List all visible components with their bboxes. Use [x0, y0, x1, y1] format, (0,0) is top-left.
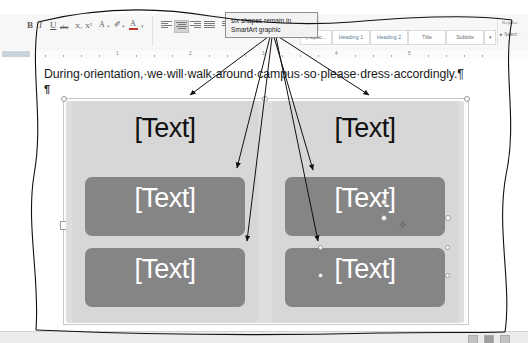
- text-highlight-chevron-icon[interactable]: ▾: [122, 22, 125, 32]
- font-color-chevron-icon[interactable]: ▾: [141, 22, 144, 32]
- document-page[interactable]: During·orientation,·we·will·walk·around·…: [0, 59, 528, 331]
- word-document-window: B I U abc X₂ X² A ▾ ✐ ▾ A ▾ ▾: [0, 0, 528, 343]
- align-left-icon[interactable]: [161, 21, 172, 30]
- smartart-shape-left-1[interactable]: [Text]: [85, 177, 245, 236]
- smartart-shape-left-1-label: [Text]: [85, 183, 245, 214]
- italic-icon[interactable]: I: [39, 20, 42, 30]
- shape-handle-bottomright[interactable]: [445, 273, 450, 278]
- smartart-shape-header-right[interactable]: [Text]: [272, 113, 458, 144]
- smartart-handle-tr[interactable]: [464, 96, 470, 102]
- align-right-icon[interactable]: [190, 21, 201, 30]
- smartart-right-column[interactable]: [Text] [Text] [Text]: [272, 101, 458, 323]
- smartart-shape-right-1-label: [Text]: [285, 183, 445, 214]
- style-title[interactable]: Title: [408, 30, 446, 45]
- annotation-line-1: six shapes remain in: [231, 17, 291, 24]
- style-subtitle[interactable]: Subtitle: [446, 30, 484, 45]
- smartart-shape-right-1[interactable]: [Text]: [285, 177, 445, 236]
- annotation-callout-text: six shapes remain in SmartArt graphic: [231, 16, 315, 34]
- view-print-layout-icon[interactable]: [468, 335, 478, 343]
- style-heading-1[interactable]: Heading 1: [332, 30, 370, 45]
- text-effects-icon[interactable]: A: [99, 20, 105, 30]
- document-paragraph[interactable]: During·orientation,·we·will·walk·around·…: [44, 67, 464, 81]
- ruler-number-2: 2: [189, 51, 192, 56]
- justify-icon[interactable]: [204, 21, 215, 30]
- annotation-line-2: SmartArt graphic: [231, 26, 280, 33]
- shape-handle-top[interactable]: [381, 215, 387, 221]
- shape-handle-bottomleft[interactable]: [318, 273, 323, 278]
- ruler-number-1: 1: [116, 51, 119, 56]
- styles-more-chevron-icon[interactable]: ▾: [484, 30, 496, 45]
- ruler-number-4: 4: [335, 51, 338, 56]
- superscript-icon[interactable]: X²: [85, 21, 92, 31]
- smartart-shape-header-left[interactable]: [Text]: [72, 113, 258, 144]
- text-effects-chevron-icon[interactable]: ▾: [107, 22, 110, 32]
- shape-handle-topright[interactable]: [445, 215, 451, 221]
- ruler-number-5: 5: [408, 51, 411, 56]
- mouse-cursor-move-icon: ✥: [399, 221, 408, 231]
- shape-handle-left[interactable]: [318, 245, 323, 250]
- empty-paragraph-mark: ¶: [44, 83, 50, 95]
- subscript-icon[interactable]: X₂: [75, 21, 83, 31]
- smartart-shape-left-2[interactable]: [Text]: [85, 248, 245, 307]
- strikethrough-icon[interactable]: abc: [60, 22, 68, 32]
- ruler-indent-marker[interactable]: [2, 51, 30, 57]
- view-read-mode-icon[interactable]: [500, 335, 510, 343]
- smartart-shape-left-2-label: [Text]: [85, 254, 245, 285]
- font-color-swatch[interactable]: [129, 28, 138, 30]
- smartart-left-column[interactable]: [Text] [Text] [Text]: [72, 101, 258, 323]
- status-bar: [0, 331, 528, 343]
- view-web-layout-icon[interactable]: [484, 335, 494, 343]
- group-divider: [152, 16, 153, 46]
- select-button[interactable]: ▸ Select ·: [500, 29, 520, 39]
- underline-icon[interactable]: U: [50, 20, 57, 30]
- text-highlight-icon[interactable]: ✐: [114, 20, 121, 30]
- smartart-graphic[interactable]: [Text] [Text] [Text] [Text] [Text] [Text…: [66, 101, 464, 323]
- replace-label[interactable]: Replace: [502, 18, 518, 28]
- bold-icon[interactable]: B: [27, 20, 33, 30]
- smartart-shape-right-2-label: [Text]: [285, 254, 445, 285]
- annotation-callout: six shapes remain in SmartArt graphic: [225, 12, 318, 38]
- select-label: Select ·: [504, 31, 520, 37]
- style-heading-2[interactable]: Heading 2: [370, 30, 408, 45]
- shape-handle-right[interactable]: [445, 245, 450, 250]
- shape-handle-rotate[interactable]: [381, 199, 387, 205]
- group-divider-3: [497, 16, 498, 46]
- smartart-shape-right-2[interactable]: [Text]: [285, 248, 445, 307]
- ruler-number-3: 3: [262, 51, 265, 56]
- align-center-icon[interactable]: [175, 21, 188, 32]
